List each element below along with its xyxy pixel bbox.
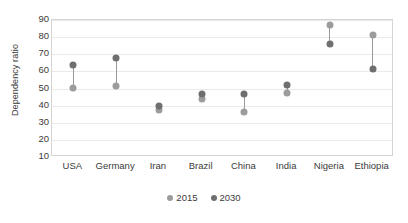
- data-point-2030: [155, 102, 162, 109]
- data-point-2015: [369, 32, 376, 39]
- gridline: [52, 89, 392, 90]
- y-axis-tick-label: 90: [25, 14, 49, 24]
- data-point-2015: [241, 109, 248, 116]
- gridline: [52, 71, 392, 72]
- x-axis-tick-labels: USAGermanyIranBrazilChinaIndiaNigeriaEth…: [51, 160, 393, 176]
- data-point-2030: [284, 82, 291, 89]
- x-axis-tick-label-iran: Iran: [150, 160, 166, 171]
- y-axis-tick-label: 70: [25, 49, 49, 59]
- data-point-2030: [241, 90, 248, 97]
- x-axis-tick-label-usa: USA: [63, 160, 83, 171]
- legend-item-2015[interactable]: 2015: [167, 192, 197, 203]
- gridline: [52, 37, 392, 38]
- y-axis-tick-label: 10: [25, 151, 49, 161]
- data-point-2015: [113, 82, 120, 89]
- legend-dot-icon: [167, 195, 173, 201]
- legend-item-label: 2015: [176, 192, 197, 203]
- gridline: [52, 54, 392, 55]
- data-point-2030: [326, 40, 333, 47]
- y-axis-tick-label: 80: [25, 31, 49, 41]
- x-axis-tick-label-brazil: Brazil: [189, 160, 213, 171]
- data-point-2030: [70, 62, 77, 69]
- legend-dot-icon: [211, 195, 217, 201]
- x-axis-tick-label-germany: Germany: [96, 160, 135, 171]
- data-point-2030: [113, 54, 120, 61]
- x-axis-tick-label-nigeria: Nigeria: [314, 160, 344, 171]
- chart-legend: 20152030: [0, 192, 408, 203]
- data-point-2030: [198, 90, 205, 97]
- y-axis-tick-label: 40: [25, 100, 49, 110]
- plot-area: [51, 19, 393, 156]
- legend-item-2030[interactable]: 2030: [211, 192, 241, 203]
- y-axis-tick-label: 20: [25, 134, 49, 144]
- gridline: [52, 20, 392, 21]
- y-axis-tick-label: 50: [25, 83, 49, 93]
- gridline: [52, 123, 392, 124]
- dependency-ratio-chart: Dependency ratio 102030405060708090 USAG…: [0, 0, 408, 223]
- data-point-2015: [326, 22, 333, 29]
- data-point-2030: [369, 65, 376, 72]
- change-connector-line: [372, 35, 373, 68]
- gridline: [52, 106, 392, 107]
- y-axis-tick-label: 30: [25, 117, 49, 127]
- data-point-2015: [284, 89, 291, 96]
- data-point-2015: [70, 84, 77, 91]
- y-axis-tick-label: 60: [25, 66, 49, 76]
- gridline: [52, 140, 392, 141]
- x-axis-tick-label-india: India: [276, 160, 297, 171]
- x-axis-tick-label-ethiopia: Ethiopia: [354, 160, 388, 171]
- x-axis-tick-label-china: China: [231, 160, 256, 171]
- legend-item-label: 2030: [220, 192, 241, 203]
